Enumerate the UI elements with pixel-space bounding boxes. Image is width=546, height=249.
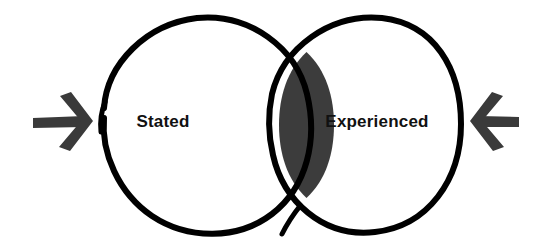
stated-label: Stated [136, 112, 189, 131]
left-arrow-shaft [33, 116, 84, 128]
venn-diagram-canvas: Stated Experienced [0, 0, 546, 249]
venn-diagram-svg: Stated Experienced [0, 0, 546, 249]
left-arrow [33, 92, 93, 151]
experienced-circle-pen-tail [282, 206, 300, 234]
experienced-label: Experienced [325, 112, 428, 131]
right-arrow [470, 92, 519, 151]
